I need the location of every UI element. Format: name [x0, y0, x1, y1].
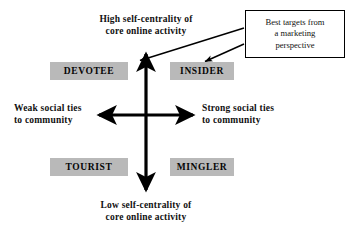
segment-box-devotee[interactable]: DEVOTEE [50, 62, 128, 80]
segment-box-insider[interactable]: INSIDER [170, 62, 234, 80]
axis-label-top: High self-centrality of core online acti… [68, 14, 224, 37]
callout-text: Best targets from a marketing perspectiv… [265, 17, 324, 52]
segment-box-mingler[interactable]: MINGLER [170, 158, 234, 176]
axis-label-right: Strong social ties to community [202, 103, 298, 126]
callout-arrow-insider [205, 44, 244, 62]
segment-label-tourist: TOURIST [66, 162, 113, 172]
segment-label-insider: INSIDER [180, 66, 224, 76]
segment-label-mingler: MINGLER [177, 162, 228, 172]
segment-box-tourist[interactable]: TOURIST [50, 158, 128, 176]
axis-label-left: Weak social ties to community [14, 103, 98, 126]
callout-box[interactable]: Best targets from a marketing perspectiv… [245, 10, 345, 58]
segment-label-devotee: DEVOTEE [64, 66, 114, 76]
axis-label-bottom: Low self-centrality of core online activ… [68, 200, 224, 223]
quadrant-diagram: High self-centrality of core online acti… [0, 0, 351, 234]
